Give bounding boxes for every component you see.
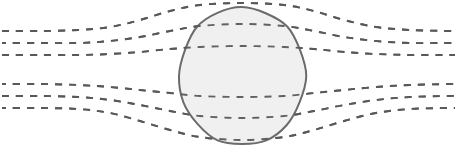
figure-canvas (0, 0, 457, 164)
central-sphere (179, 7, 306, 144)
field-diagram-svg (0, 0, 457, 164)
